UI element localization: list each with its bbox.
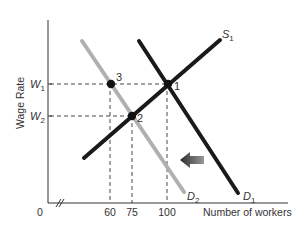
x-axis-title: Number of workers: [203, 206, 292, 218]
point-1: [164, 80, 172, 88]
demand-curve-d1: [139, 41, 238, 193]
labor-market-chart: 3 2 1 S1 D2 D1 W1 W2 Wage Rate 0 60 75 1…: [0, 0, 301, 237]
s1-label: S1: [222, 28, 234, 43]
point-2-label: 2: [137, 112, 143, 124]
y-axis-title: Wage Rate: [14, 77, 26, 129]
x-tick-60: 60: [104, 206, 116, 218]
origin-label: 0: [37, 206, 43, 218]
point-3: [107, 80, 115, 88]
w1-label: W1: [30, 78, 45, 93]
x-tick-75: 75: [126, 206, 138, 218]
shift-left-arrow-icon: [180, 152, 204, 168]
point-1-label: 1: [174, 80, 180, 92]
w2-label: W2: [30, 110, 45, 125]
point-3-label: 3: [116, 71, 122, 83]
x-tick-100: 100: [158, 206, 176, 218]
point-2: [128, 112, 136, 120]
